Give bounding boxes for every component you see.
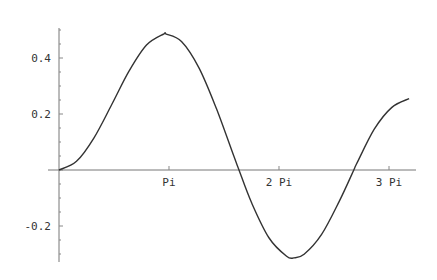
line-chart: 0.40.2-0.2Pi2 Pi3 Pi [0, 0, 437, 280]
x-tick-label: 3 Pi [376, 176, 403, 189]
y-tick-label: 0.2 [31, 108, 51, 121]
y-tick-label: 0.4 [31, 52, 51, 65]
tick-labels: 0.40.2-0.2Pi2 Pi3 Pi [25, 52, 403, 233]
data-curve [59, 33, 409, 259]
x-tick-label: Pi [162, 176, 175, 189]
axes [48, 28, 416, 262]
ticks [59, 30, 389, 254]
x-tick-label: 2 Pi [266, 176, 293, 189]
y-tick-label: -0.2 [25, 220, 52, 233]
